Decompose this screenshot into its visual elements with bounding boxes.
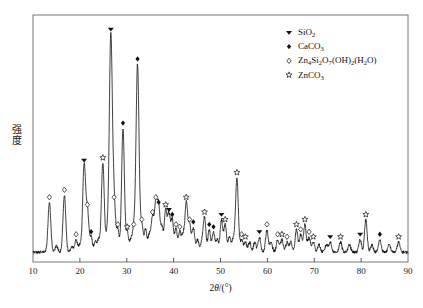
marker-znco3 [202,209,208,215]
marker-sio2 [286,31,292,35]
marker-hemimorphite [85,202,89,207]
marker-sio2 [81,159,87,163]
x-axis-ticks: 102030405060708090 [29,258,414,276]
x-tick-label: 30 [122,266,132,276]
marker-caco3 [287,44,291,49]
marker-znco3 [338,234,344,240]
x-tick-label: 70 [310,266,320,276]
marker-znco3 [234,169,240,175]
marker-hemimorphite [265,222,269,227]
marker-caco3 [207,222,211,227]
marker-hemimorphite [140,217,144,222]
x-tick-label: 80 [357,266,367,276]
marker-hemimorphite [287,58,291,63]
marker-znco3 [279,231,285,237]
marker-caco3 [157,199,161,204]
marker-caco3 [211,224,215,229]
marker-znco3 [100,155,106,161]
marker-hemimorphite [62,187,66,192]
xrd-chart-figure: 1020304050607080902θ/(°)强度SiO2CaCO3Zn4Si… [0,0,423,308]
y-axis-label-char: 度 [12,134,22,146]
marker-sio2 [218,213,224,217]
marker-hemimorphite [112,195,116,200]
marker-znco3 [302,216,308,222]
marker-hemimorphite [132,222,136,227]
marker-hemimorphite [276,232,280,237]
marker-znco3 [363,211,369,217]
x-tick-label: 60 [263,266,273,276]
x-tick-label: 50 [216,266,226,276]
x-axis-label: 2θ/(°) [209,283,231,294]
marker-hemimorphite [307,229,311,234]
legend-label-znco3: ZnCO3 [298,70,325,81]
marker-znco3 [124,224,130,230]
marker-znco3 [183,194,189,200]
xrd-pattern-chart: 1020304050607080902θ/(°)强度SiO2CaCO3Zn4Si… [0,0,423,308]
marker-caco3 [135,56,139,61]
marker-znco3 [163,202,169,208]
marker-hemimorphite [74,232,78,237]
marker-znco3 [293,221,299,227]
marker-caco3 [378,232,382,237]
marker-sio2 [327,235,333,239]
marker-hemimorphite [299,227,303,232]
marker-caco3 [170,212,174,217]
marker-hemimorphite [178,224,182,229]
x-tick-label: 90 [404,266,414,276]
marker-sio2 [357,233,363,237]
marker-znco3 [396,234,402,240]
x-tick-label: 40 [169,266,179,276]
marker-sio2 [108,28,114,32]
legend-label-zn4si2o7(oh)2(h2o): Zn4Si2O7(OH)2(H2O) [298,55,377,66]
marker-hemimorphite [285,234,289,239]
marker-caco3 [191,219,195,224]
x-tick-label: 10 [29,266,39,276]
marker-sio2 [256,230,262,234]
legend-label-sio2: SiO2 [298,27,315,38]
marker-znco3 [310,234,316,240]
x-tick-label: 20 [75,266,85,276]
marker-sio2 [166,208,172,212]
marker-hemimorphite [174,222,178,227]
marker-hemimorphite [47,195,51,200]
legend-label-caco3: CaCO3 [298,41,325,52]
y-axis-label-char: 强 [12,124,22,135]
marker-caco3 [121,120,125,125]
y-axis-label: 强度 [12,124,22,146]
legend: SiO2CaCO3Zn4Si2O7(OH)2(H2O)ZnCO3 [286,27,377,81]
marker-znco3 [286,72,292,78]
marker-znco3 [222,216,228,222]
